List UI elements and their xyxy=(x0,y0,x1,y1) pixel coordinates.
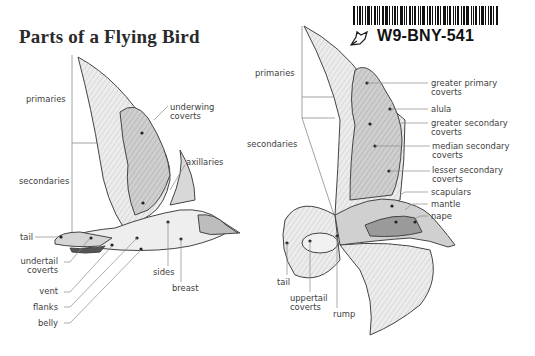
label-alula: alula xyxy=(431,105,451,115)
label-nape: nape xyxy=(431,212,452,222)
label-lesser-secondary-coverts-line2: coverts xyxy=(432,175,463,185)
label-vent: vent xyxy=(20,287,58,297)
label-tail-underside: tail xyxy=(20,233,33,243)
label-underwing-coverts-line2: coverts xyxy=(170,112,201,122)
label-mantle: mantle xyxy=(431,200,460,210)
label-breast: breast xyxy=(172,284,199,294)
label-axillaries: axillaries xyxy=(186,158,224,168)
upperside-bird xyxy=(283,26,455,335)
label-scapulars: scapulars xyxy=(431,188,471,198)
label-tail-upperside: tail xyxy=(277,278,290,288)
label-greater-primary-coverts-line2: coverts xyxy=(431,88,462,98)
underside-bird xyxy=(35,55,240,323)
label-sides: sides xyxy=(153,268,175,278)
label-uppertail-coverts-line2: coverts xyxy=(290,303,321,313)
label-belly: belly xyxy=(20,319,58,329)
label-median-secondary-coverts-line2: coverts xyxy=(432,151,463,161)
label-primaries-upperside: primaries xyxy=(255,69,295,79)
label-greater-secondary-coverts-line2: coverts xyxy=(431,128,462,138)
label-primaries-underside: primaries xyxy=(26,95,66,105)
label-secondaries-underside: secondaries xyxy=(19,177,69,187)
label-rump: rump xyxy=(333,310,355,320)
label-secondaries-upperside: secondaries xyxy=(247,140,297,150)
label-undertail-coverts-line2: coverts xyxy=(20,266,58,276)
label-flanks: flanks xyxy=(20,303,58,313)
